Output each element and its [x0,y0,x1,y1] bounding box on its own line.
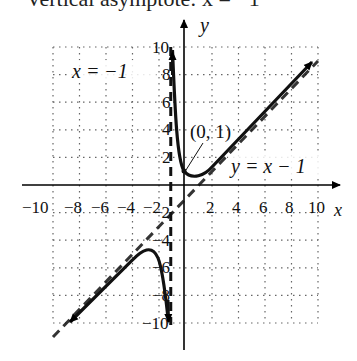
graph: y x −10 −8 −6 −4 −2 2 4 6 8 10 10 8 6 4 … [0,0,357,361]
slant-asymptote-label: y = x − 1 [229,155,306,178]
svg-text:−6: −6 [91,198,109,217]
vertical-asymptote-label: x = −1 [71,60,128,82]
svg-text:4: 4 [232,198,241,217]
svg-text:2: 2 [162,148,171,167]
svg-text:8: 8 [162,65,171,84]
point-label: (0, 1) [190,121,231,143]
svg-text:8: 8 [285,198,294,217]
svg-text:6: 6 [259,198,268,217]
svg-text:10: 10 [308,198,325,217]
svg-text:6: 6 [162,93,171,112]
svg-text:−2: −2 [152,203,170,222]
y-axis-label: y [198,14,209,37]
svg-text:−10: −10 [142,314,169,333]
svg-text:2: 2 [206,198,215,217]
x-tick-labels: −10 −8 −6 −4 −2 2 4 6 8 10 [22,198,325,217]
svg-text:10: 10 [152,38,169,57]
svg-text:−10: −10 [22,198,49,217]
point-leader-line [186,143,203,170]
x-axis-label: x [333,200,342,220]
svg-text:−4: −4 [152,231,171,250]
point-marker [182,169,187,174]
svg-text:−8: −8 [64,198,82,217]
svg-text:−4: −4 [117,198,136,217]
